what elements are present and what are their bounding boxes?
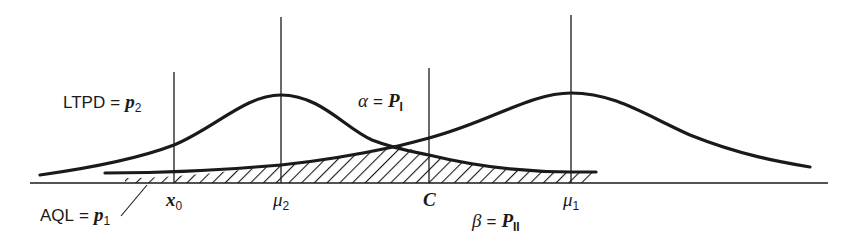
mu1-subscript: 1 — [573, 199, 580, 213]
equals-sign: = — [110, 93, 120, 112]
tick-mu1: μ1 — [563, 190, 579, 209]
tick-c: C — [423, 190, 436, 209]
mu-symbol: μ — [563, 189, 573, 210]
aql-text: AQL — [40, 206, 74, 225]
p1-subscript: 1 — [103, 214, 110, 228]
mu2-subscript: 2 — [283, 199, 290, 213]
equals-sign: = — [79, 206, 89, 225]
alpha-symbol: α — [358, 90, 368, 111]
x0-subscript: 0 — [176, 199, 183, 213]
P-symbol: P — [388, 90, 400, 111]
aql-leader-line — [121, 185, 147, 216]
aql-label: AQL=p1 — [40, 205, 110, 224]
p2-subscript: 2 — [135, 101, 142, 115]
beta-symbol: β — [472, 210, 481, 231]
tick-x0: x0 — [166, 190, 182, 209]
beta-subscript: II — [513, 220, 520, 234]
x-symbol: x — [166, 189, 176, 210]
ltpd-label: LTPD=p2 — [63, 92, 141, 111]
p2-symbol: p — [125, 91, 135, 112]
alpha-label: α=PI — [358, 91, 403, 110]
tick-mu2: μ2 — [273, 190, 289, 209]
beta-label: β=PII — [472, 211, 520, 230]
mu-symbol: μ — [273, 189, 283, 210]
alpha-subscript: I — [400, 100, 403, 114]
equals-sign: = — [373, 92, 383, 111]
c-symbol: C — [423, 189, 436, 210]
equals-sign: = — [486, 212, 496, 231]
P-symbol: P — [501, 210, 513, 231]
ltpd-text: LTPD — [63, 93, 105, 112]
